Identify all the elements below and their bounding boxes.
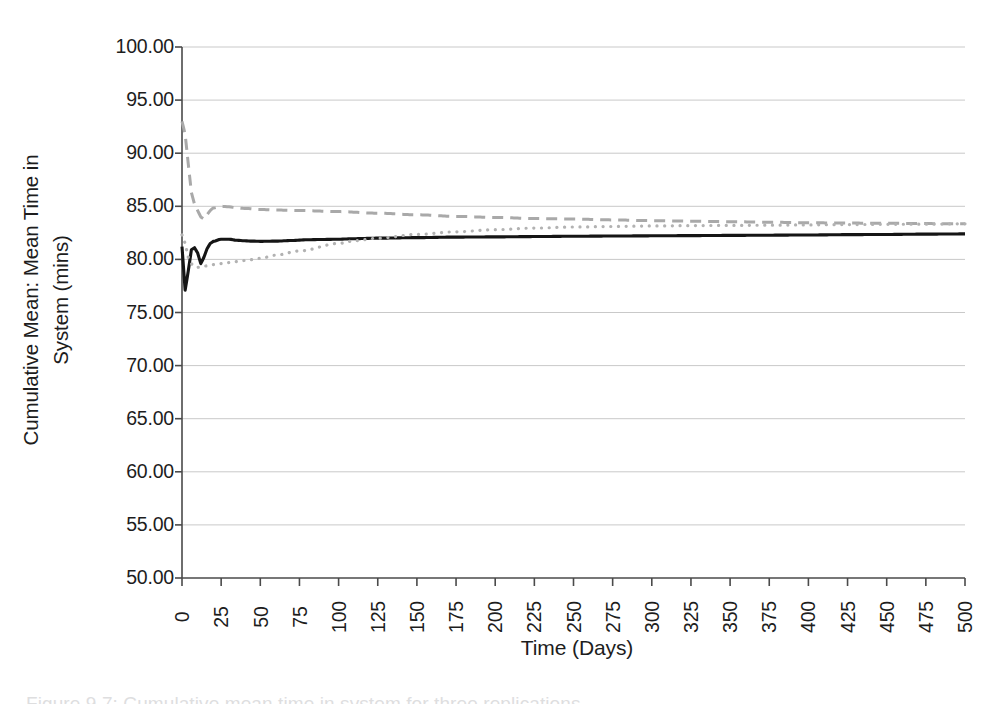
x-tick-label: 500 — [935, 586, 995, 608]
y-tick-marks — [175, 47, 182, 578]
figure-caption: Figure 9.7: Cumulative mean time in syst… — [26, 692, 976, 704]
figure-container: Cumulative Mean: Mean Time in System (mi… — [0, 0, 1005, 704]
x-axis-title: Time (Days) — [182, 636, 972, 660]
x-tick-marks — [182, 578, 965, 586]
